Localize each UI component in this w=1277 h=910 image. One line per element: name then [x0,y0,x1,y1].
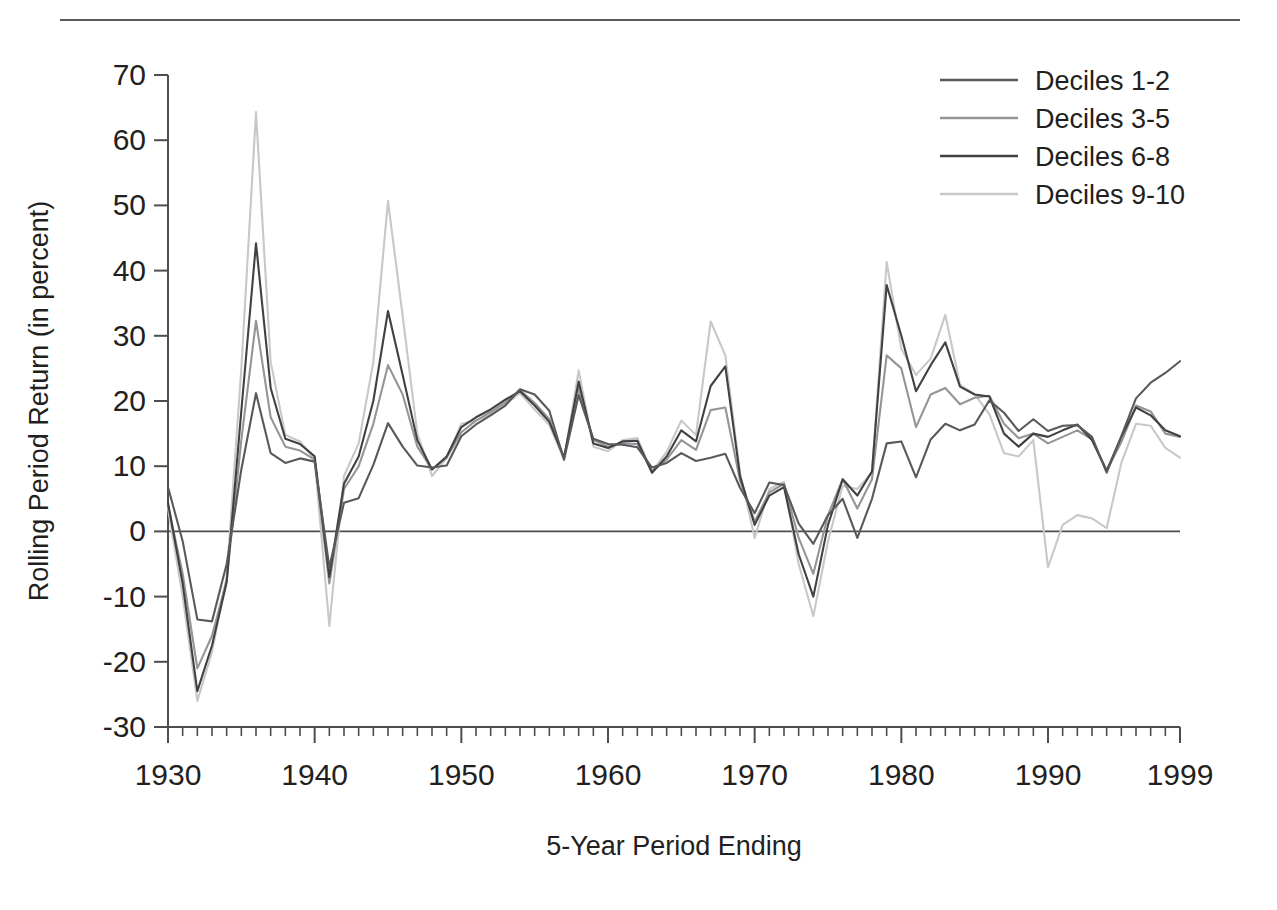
y-tick-label-50: 50 [113,188,146,221]
legend-label-2: Deciles 3-5 [1035,104,1170,134]
x-tick-label-1970: 1970 [721,758,788,791]
legend-label-1: Deciles 1-2 [1035,66,1170,96]
y-tick-label-30: 30 [113,319,146,352]
chart-figure: -30-20-100102030405060701930194019501960… [0,0,1277,910]
y-tick-label--10: -10 [103,580,146,613]
x-tick-label-1990: 1990 [1015,758,1082,791]
y-tick-label-20: 20 [113,384,146,417]
x-tick-label-1940: 1940 [281,758,348,791]
y-tick-label-40: 40 [113,254,146,287]
y-tick-label--30: -30 [103,710,146,743]
series-line-deciles-6-8 [168,243,1180,691]
x-tick-label-1960: 1960 [575,758,642,791]
series-line-deciles-1-2 [168,361,1180,621]
legend-label-4: Deciles 9-10 [1035,180,1185,210]
y-tick-label--20: -20 [103,645,146,678]
y-tick-label-60: 60 [113,123,146,156]
header-rule [60,19,1240,21]
y-tick-label-10: 10 [113,449,146,482]
legend-label-3: Deciles 6-8 [1035,142,1170,172]
x-axis-title: 5-Year Period Ending [546,831,802,861]
x-tick-label-1950: 1950 [428,758,495,791]
line-chart: -30-20-100102030405060701930194019501960… [0,0,1277,910]
x-tick-label-1930: 1930 [135,758,202,791]
y-tick-label-70: 70 [113,58,146,91]
y-axis-title: Rolling Period Return (in percent) [24,201,54,602]
x-tick-label-1980: 1980 [868,758,935,791]
series-line-deciles-9-10 [168,112,1180,701]
x-tick-label-1999: 1999 [1147,758,1214,791]
y-tick-label-0: 0 [129,514,146,547]
